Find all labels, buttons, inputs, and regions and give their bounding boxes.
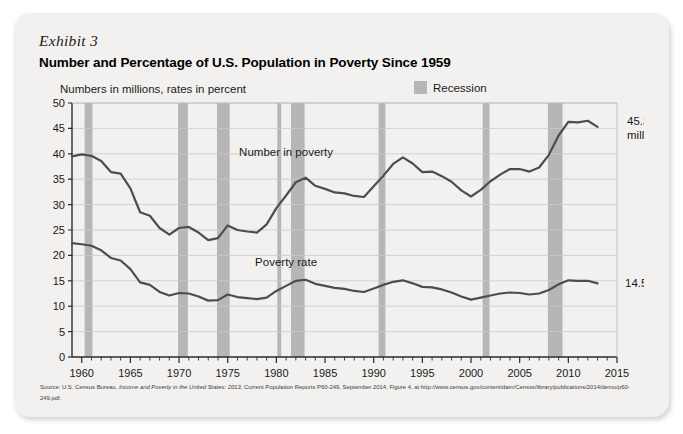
y-tick-label: 15 (53, 275, 65, 287)
series-line (72, 243, 598, 300)
x-tick-label: 1965 (118, 367, 142, 379)
y-tick-label: 10 (53, 300, 65, 312)
x-tick-label: 1975 (215, 367, 239, 379)
y-tick-label: 25 (53, 224, 65, 236)
legend-item-recession: Recession (433, 82, 487, 94)
y-tick-label: 30 (53, 199, 65, 211)
x-tick-label: 2015 (605, 367, 629, 379)
source-note: Source: U.S. Census Bureau, Income and P… (40, 382, 650, 404)
y-tick-label: 50 (53, 97, 65, 109)
y-tick-label: 35 (53, 173, 65, 185)
x-tick-label: 2005 (507, 367, 531, 379)
x-tick-label: 1985 (313, 367, 337, 379)
source-title: Income and Poverty in the United States:… (119, 384, 241, 390)
series-label: Number in poverty (239, 146, 333, 158)
y-tick-label: 40 (53, 148, 65, 160)
source-prefix: Source: U.S. Census Bureau, (40, 384, 119, 390)
y-tick-label: 0 (59, 351, 65, 363)
poverty-line-chart: 05101520253035404550 1960196519701975198… (39, 95, 644, 380)
x-tick-label: 1995 (410, 367, 434, 379)
x-tick-label: 1980 (264, 367, 288, 379)
x-tick-label: 1960 (69, 367, 93, 379)
recession-swatch-icon (414, 81, 427, 94)
series-end-label: 14.5% (625, 277, 644, 289)
chart-plot-area: 05101520253035404550 1960196519701975198… (39, 95, 644, 380)
exhibit-card: Exhibit 3 Number and Percentage of U.S. … (14, 13, 669, 417)
y-tick-label: 5 (59, 326, 65, 338)
legend: Recession (414, 81, 487, 94)
gridlines (72, 103, 617, 332)
axis-units-note: Numbers in millions, rates in percent (60, 83, 246, 95)
page-title: Number and Percentage of U.S. Population… (39, 55, 451, 70)
series-end-label: 45.3 (627, 115, 644, 127)
x-tick-label: 2010 (556, 367, 580, 379)
x-tick-label: 2000 (459, 367, 483, 379)
series-end-label-units: million (627, 129, 644, 141)
series-line (72, 121, 598, 240)
exhibit-label: Exhibit 3 (39, 32, 98, 50)
y-tick-label: 45 (53, 122, 65, 134)
screenshot-root: Exhibit 3 Number and Percentage of U.S. … (0, 0, 683, 434)
x-axis-ticks: 1960196519701975198019851990199520002005… (69, 357, 629, 379)
x-tick-label: 1970 (167, 367, 191, 379)
x-tick-label: 1990 (361, 367, 385, 379)
series-label: Poverty rate (255, 256, 317, 268)
y-axis-ticks: 05101520253035404550 (53, 97, 72, 363)
y-tick-label: 20 (53, 249, 65, 261)
data-series (72, 121, 598, 301)
